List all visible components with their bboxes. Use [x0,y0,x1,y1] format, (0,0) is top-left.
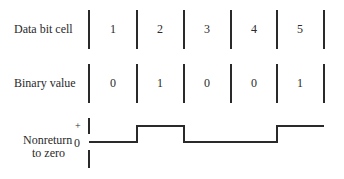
bit-cell-5: 5 [290,22,310,36]
row-label-data-bit-cell: Data bit cell [14,22,73,36]
binary-value-3: 0 [197,76,217,90]
nrz-label-line1: Nonreturn [23,133,72,147]
row-label-binary-value: Binary value [14,76,76,90]
bit-cell-3: 3 [197,22,217,36]
nrz-label-line2: to zero [32,146,65,160]
bit-cell-2: 2 [150,22,170,36]
binary-value-5: 1 [290,76,310,90]
binary-value-2: 1 [150,76,170,90]
bit-cell-1: 1 [103,22,123,36]
bit-cell-4: 4 [244,22,264,36]
binary-value-4: 0 [244,76,264,90]
nrz-plus-marker: + [75,119,81,133]
nrz-zero-marker: 0 [74,136,80,150]
binary-value-1: 0 [103,76,123,90]
